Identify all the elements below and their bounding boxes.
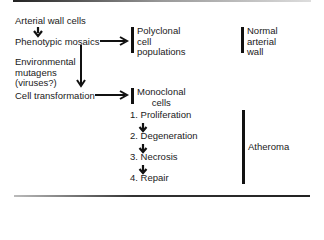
step-repair: 4. Repair [130,173,169,184]
bracket-normal-wall [241,27,244,53]
bottom-rule [14,195,310,197]
bracket-polyclonal [131,27,134,53]
label-polyclonal: Polyclonal cell populations [137,26,186,58]
label-monoclonal: Monoclonal cells [137,87,186,108]
label-normal-wall: Normal arterial wall [247,26,278,58]
step-degeneration: 2. Degeneration [130,131,198,142]
step-necrosis: 3. Necrosis [130,152,178,163]
step-proliferation: 1. Proliferation [130,110,191,121]
bracket-atheroma [242,110,245,184]
label-atheroma: Atheroma [248,142,289,153]
bracket-monoclonal [131,88,134,104]
